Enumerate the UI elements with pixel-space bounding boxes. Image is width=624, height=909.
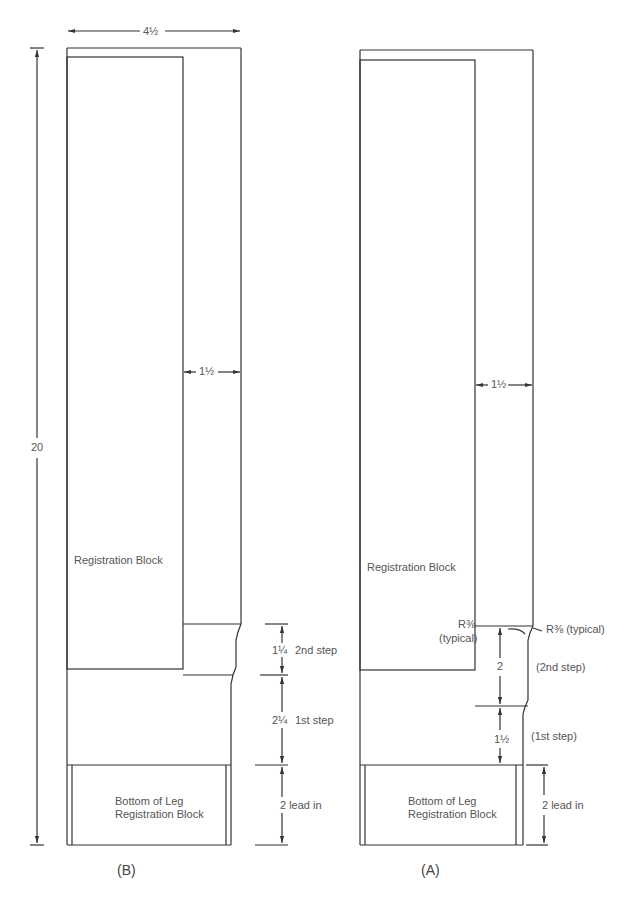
b-registration-block-label: Registration Block [74, 554, 163, 567]
b-step-1-value: 2¼ [272, 714, 287, 727]
a-radius-left-label-2: (typical) [439, 632, 478, 645]
a-bottom-block-label-2: Registration Block [408, 808, 497, 821]
b-step-2-label: 2nd step [295, 644, 337, 657]
b-step-1-label: 1st step [295, 714, 334, 727]
a-lead-in-label: 2 lead in [542, 799, 584, 812]
a-step-1-value: 1½ [494, 733, 509, 746]
drawing-a-outline [360, 50, 533, 845]
a-step-2-value: 2 [497, 660, 503, 673]
b-bottom-block-label-1: Bottom of Leg [115, 795, 184, 808]
a-registration-block-label: Registration Block [367, 561, 456, 574]
b-lead-in-label: 2 lead in [280, 799, 322, 812]
a-radius-left-label-1: R⅜ [458, 618, 475, 631]
a-bottom-block-label-1: Bottom of Leg [408, 795, 477, 808]
a-offset-dim-label: 1½ [491, 378, 506, 391]
b-bottom-block-label-2: Registration Block [115, 808, 204, 821]
overall-height-label: 20 [31, 441, 43, 454]
drawing-b-outline [67, 48, 241, 845]
b-caption: (B) [117, 862, 136, 879]
a-caption: (A) [421, 862, 440, 879]
a-step-2-label: (2nd step) [536, 661, 586, 674]
technical-drawing [0, 0, 624, 909]
a-radius-right-label: R⅜ (typical) [546, 623, 605, 636]
b-step-2-value: 1¼ [272, 644, 287, 657]
overall-width-label: 4½ [143, 25, 158, 38]
b-offset-dim-label: 1½ [199, 365, 214, 378]
a-step-1-label: (1st step) [531, 730, 577, 743]
